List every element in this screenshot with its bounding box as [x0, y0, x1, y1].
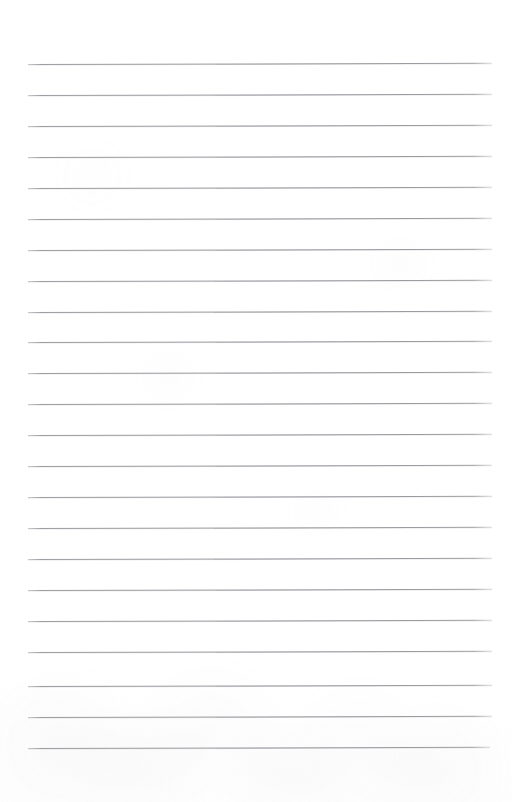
- ruled-line: [28, 403, 492, 405]
- ruled-line: [28, 63, 492, 65]
- ruled-line: [28, 341, 492, 343]
- ruled-line: [28, 716, 492, 718]
- ruled-line: [28, 558, 492, 560]
- ruled-line: [28, 311, 492, 313]
- ruled-line: [28, 434, 492, 436]
- ruled-line: [28, 589, 492, 591]
- ruled-line: [28, 125, 492, 127]
- ruled-line: [28, 156, 492, 158]
- ruled-line: [28, 620, 492, 622]
- ruled-line: [28, 280, 492, 282]
- ruled-line: [28, 372, 492, 374]
- ruled-line: [28, 465, 492, 467]
- ruled-line: [28, 249, 492, 251]
- ruled-line: [28, 747, 490, 749]
- ruled-line: [28, 94, 492, 96]
- ruled-line: [28, 218, 492, 220]
- ruled-line: [28, 527, 492, 529]
- ruled-lines-layer: [0, 0, 512, 802]
- scanned-page: [0, 0, 512, 802]
- ruled-line: [28, 685, 492, 687]
- ruled-line: [28, 651, 492, 653]
- ruled-line: [28, 187, 492, 189]
- ruled-line: [28, 496, 492, 498]
